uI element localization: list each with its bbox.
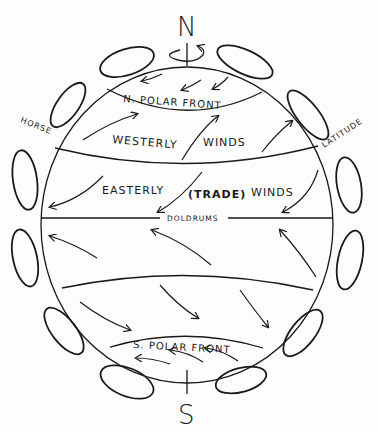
easterly-label: EASTERLY bbox=[102, 184, 164, 197]
wind-arrow-icon bbox=[50, 176, 103, 207]
wind-arrow-icon bbox=[182, 80, 201, 90]
horse-label: HORSE bbox=[19, 116, 53, 137]
wind-arrow-icon bbox=[142, 74, 162, 81]
easterly-winds-label: WINDS bbox=[251, 186, 294, 199]
south-horse-latitude-line bbox=[62, 275, 313, 290]
wind-diagram: N S N. POLAR FRONT WESTERLY WINDS EASTER… bbox=[0, 0, 379, 431]
wind-arrow-icon bbox=[50, 236, 97, 258]
wind-arrow-icon bbox=[240, 290, 268, 327]
cell-icon bbox=[96, 359, 158, 406]
globe-outline bbox=[41, 67, 333, 383]
cell-icon bbox=[44, 77, 92, 132]
cell-icon bbox=[332, 155, 365, 214]
cell-icon bbox=[9, 149, 41, 212]
wind-arrow-icon bbox=[262, 121, 292, 152]
cell-icon bbox=[213, 38, 278, 85]
wind-arrow-icon bbox=[280, 230, 316, 277]
cell-icon bbox=[96, 41, 157, 83]
north-pole-label: N bbox=[177, 12, 196, 42]
wind-arrow-icon bbox=[152, 230, 211, 265]
westerly-winds-label: WINDS bbox=[203, 136, 246, 149]
wind-arrow-icon bbox=[213, 77, 228, 89]
south-pole-label: S bbox=[178, 400, 195, 430]
latitude-label: LATITUDE bbox=[320, 117, 364, 150]
cell-icon bbox=[276, 304, 329, 363]
cell-icon bbox=[332, 228, 368, 292]
cell-icon bbox=[7, 227, 43, 289]
cell-icon bbox=[213, 362, 269, 399]
wind-arrow-icon bbox=[136, 358, 170, 364]
north-polar-front-label: N. POLAR FRONT bbox=[123, 93, 222, 111]
westerly-label: WESTERLY bbox=[112, 133, 178, 152]
wind-arrow-icon bbox=[160, 285, 198, 318]
north-horse-latitude-line bbox=[55, 146, 318, 164]
trade-label: (TRADE) bbox=[188, 188, 246, 201]
wind-arrow-icon bbox=[80, 302, 130, 330]
doldrums-label: DOLDRUMS bbox=[167, 214, 219, 223]
